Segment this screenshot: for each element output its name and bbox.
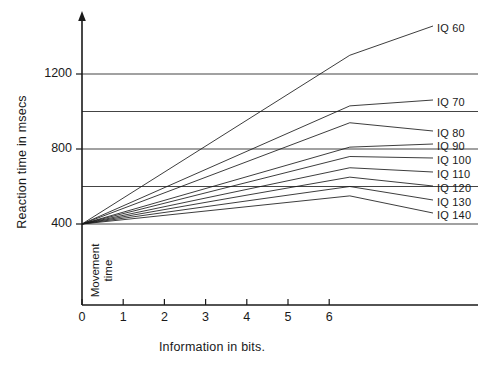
series-label-iq-60: IQ 60 bbox=[437, 22, 465, 34]
y-tick-label-1200: 1200 bbox=[26, 66, 72, 80]
x-tick-label-3: 3 bbox=[194, 310, 218, 324]
x-tick-label-4: 4 bbox=[235, 310, 259, 324]
x-tick-label-0: 0 bbox=[70, 310, 94, 324]
x-axis-title: Information in bits. bbox=[0, 340, 482, 354]
movement-time-annotation: Movement time bbox=[89, 232, 114, 310]
series-label-iq-100: IQ 100 bbox=[437, 154, 471, 166]
series-label-iq-130: IQ 130 bbox=[437, 196, 471, 208]
series-label-iq-70: IQ 70 bbox=[437, 96, 465, 108]
series-label-iq-140: IQ 140 bbox=[437, 209, 471, 221]
x-tick-label-1: 1 bbox=[111, 310, 135, 324]
series-label-iq-110: IQ 110 bbox=[437, 168, 470, 180]
chart-container: Reaction time in msecs Information in bi… bbox=[0, 0, 482, 369]
movement-time-line2: time bbox=[101, 232, 114, 310]
y-tick-label-800: 800 bbox=[26, 141, 72, 155]
y-tick-label-400: 400 bbox=[26, 216, 72, 230]
x-tick-label-6: 6 bbox=[317, 310, 341, 324]
series-label-iq-120: IQ 120 bbox=[437, 182, 471, 194]
x-tick-label-5: 5 bbox=[276, 310, 300, 324]
x-tick-label-2: 2 bbox=[152, 310, 176, 324]
movement-time-line1: Movement bbox=[89, 232, 102, 310]
series-label-iq-90: IQ 90 bbox=[437, 140, 465, 152]
series-label-iq-80: IQ 80 bbox=[437, 127, 465, 139]
x-axis-title-text: Information in bits. bbox=[159, 340, 265, 354]
